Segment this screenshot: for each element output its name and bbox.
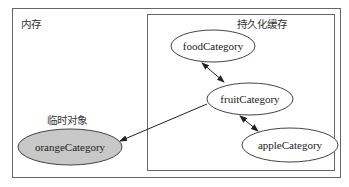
node-orange-category[interactable]: orangeCategory <box>18 129 122 165</box>
diagram-canvas: 内存 持久化缓存 foodCategory fruitCategory appl… <box>0 0 349 187</box>
memory-region-label: 内存 <box>21 18 42 30</box>
node-orange-label: orangeCategory <box>35 141 106 153</box>
node-apple-label: appleCategory <box>258 139 323 151</box>
node-food-category[interactable]: foodCategory <box>171 30 255 62</box>
node-fruit-label: fruitCategory <box>220 93 280 105</box>
temp-object-label: 临时对象 <box>47 114 87 126</box>
persistent-cache-label: 持久化缓存 <box>237 18 288 30</box>
node-food-label: foodCategory <box>183 40 244 52</box>
node-fruit-category[interactable]: fruitCategory <box>207 83 293 115</box>
node-apple-category[interactable]: appleCategory <box>242 128 338 162</box>
